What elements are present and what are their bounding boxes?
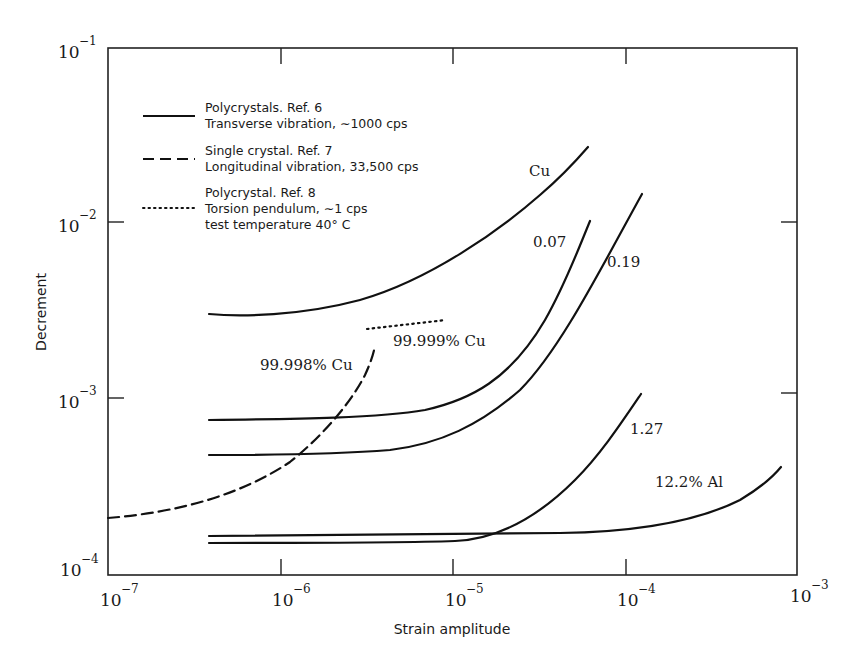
legend-entry-line1: Polycrystal. Ref. 8	[205, 185, 316, 200]
y-tick-exp: −2	[79, 208, 97, 222]
chart-canvas: 10 −1 10 −2 10 −3 10 −4 10 −7 10 −6 10 −…	[0, 0, 866, 668]
x-tick-exp: −4	[638, 582, 656, 596]
curve-99-999-cu-dotted	[367, 320, 446, 329]
x-tick-exp: −6	[293, 582, 311, 596]
y-tick-label: 10	[60, 560, 82, 580]
y-tick-exp: −3	[79, 384, 97, 398]
x-tick-exp: −5	[466, 582, 484, 596]
label-0-07: 0.07	[533, 233, 566, 251]
label-99-998-cu: 99.998% Cu	[260, 356, 353, 374]
x-axis-label: Strain amplitude	[394, 621, 511, 637]
label-0-19: 0.19	[607, 253, 640, 271]
y-tick-exp: −4	[81, 552, 99, 566]
x-tick-exp: −3	[811, 578, 829, 592]
curve-0-19	[209, 194, 642, 455]
y-axis-label: Decrement	[33, 273, 49, 351]
x-tick-label: 10	[100, 590, 122, 610]
curve-1-27	[209, 394, 641, 543]
legend-entry-line2: Transverse vibration, ∼1000 cps	[204, 116, 408, 131]
label-cu: Cu	[529, 162, 550, 180]
legend-entry-line1: Polycrystals. Ref. 6	[205, 100, 322, 115]
y-tick-exp: −1	[79, 34, 97, 48]
legend-entry-line2: Longitudinal vibration, 33,500 cps	[205, 159, 419, 174]
legend: Polycrystals. Ref. 6 Transverse vibratio…	[143, 100, 419, 232]
legend-entry-line1: Single crystal. Ref. 7	[205, 143, 333, 158]
y-tick-label: 10	[58, 216, 80, 236]
label-1-27: 1.27	[630, 420, 663, 438]
y-tick-labels: 10 −1 10 −2 10 −3 10 −4	[58, 34, 99, 580]
x-tick-label: 10	[790, 586, 812, 606]
x-tick-label: 10	[272, 590, 294, 610]
x-tick-labels: 10 −7 10 −6 10 −5 10 −4 10 −3	[100, 578, 829, 610]
y-tick-label: 10	[58, 392, 80, 412]
legend-entry-line2: Torsion pendulum, ∼1 cps	[204, 201, 367, 216]
x-tick-exp: −7	[121, 582, 139, 596]
label-12-2-al: 12.2% Al	[655, 473, 723, 491]
label-99-999-cu: 99.999% Cu	[393, 332, 486, 350]
legend-entry-line3: test temperature 40° C	[205, 217, 351, 232]
y-ticks	[108, 222, 797, 398]
x-tick-label: 10	[617, 590, 639, 610]
y-tick-label: 10	[58, 42, 80, 62]
x-tick-label: 10	[445, 590, 467, 610]
